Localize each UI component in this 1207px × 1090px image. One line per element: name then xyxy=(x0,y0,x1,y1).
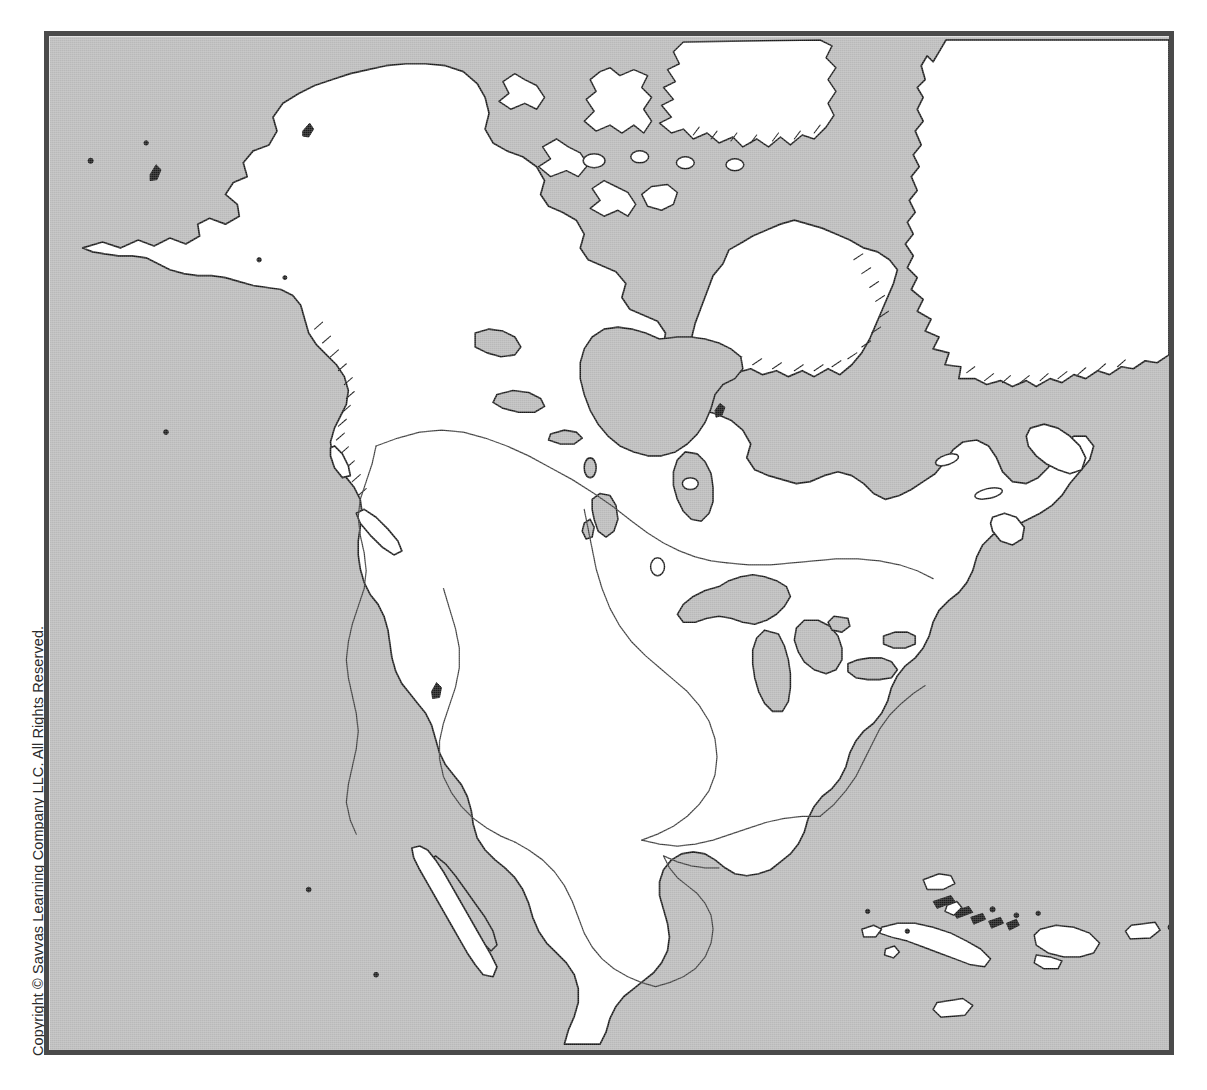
landmass-greenland xyxy=(905,40,1169,387)
map-frame xyxy=(44,31,1174,1055)
landmass-caribbean-islands xyxy=(862,874,1169,1018)
north-america-map xyxy=(49,36,1169,1050)
landmass-baja-california xyxy=(412,846,497,977)
page-root: Copyright © Savvas Learning Company LLC.… xyxy=(0,0,1207,1090)
landmass-axel-heiberg xyxy=(584,68,651,133)
landmass-ellesmere-island xyxy=(660,40,836,147)
